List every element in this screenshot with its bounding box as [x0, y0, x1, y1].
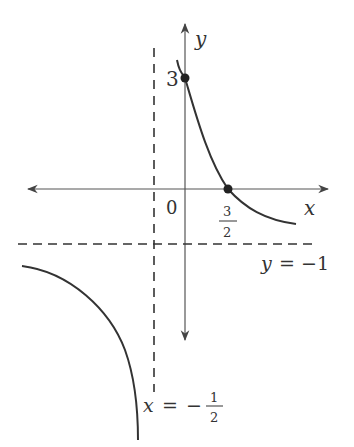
v-asymptote-num: 1: [210, 390, 218, 405]
curve-right-branch: [177, 60, 296, 224]
h-asymptote-rhs: −1: [301, 252, 329, 274]
origin-label: 0: [166, 197, 177, 218]
x-intercept-label-num: 3: [223, 204, 231, 219]
h-asymptote-eq: =: [279, 252, 295, 274]
y-intercept-label: 3: [166, 67, 179, 91]
v-asymptote-eq: =: [162, 394, 178, 416]
function-graph: y x 0 3 3 2 y = −1 x = − 1 2: [0, 0, 354, 447]
y-intercept-point: [181, 74, 190, 83]
x-axis-label: x: [304, 196, 315, 220]
curve-left-branch: [22, 266, 138, 440]
y-axis-label: y: [194, 27, 207, 51]
v-asymptote-lhs: x: [143, 394, 154, 416]
x-intercept-point: [224, 185, 233, 194]
h-asymptote-lhs: y: [260, 252, 272, 274]
x-intercept-label-den: 2: [223, 225, 231, 240]
v-asymptote-den: 2: [210, 410, 218, 425]
v-asymptote-sign: −: [186, 394, 202, 416]
